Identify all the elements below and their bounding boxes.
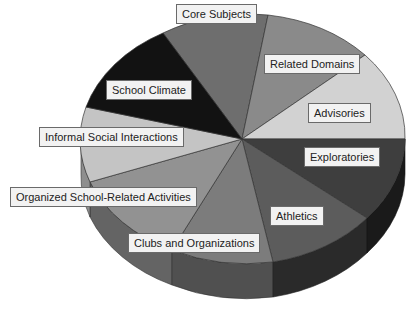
label-organized-activities: Organized School-Related Activities (10, 187, 197, 207)
label-school-climate: School Climate (106, 80, 192, 100)
label-informal-social: Informal Social Interactions (39, 127, 184, 147)
label-related-domains: Related Domains (264, 54, 360, 74)
label-advisories: Advisories (308, 103, 371, 123)
label-clubs-organizations: Clubs and Organizations (128, 233, 260, 253)
label-core-subjects: Core Subjects (176, 4, 257, 24)
label-athletics: Athletics (270, 206, 324, 226)
label-exploratories: Exploratories (304, 147, 380, 167)
